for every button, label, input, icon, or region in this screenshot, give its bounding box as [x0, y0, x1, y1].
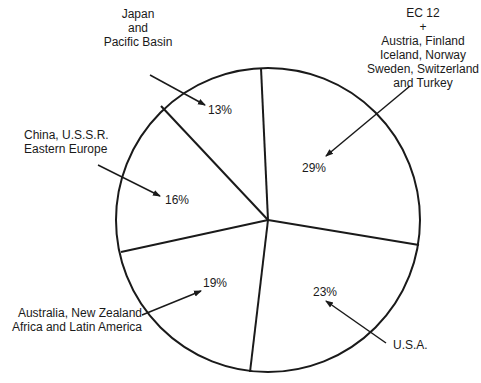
- percent-ec12: 29%: [302, 161, 326, 175]
- arrow-china: [98, 165, 160, 196]
- percent-usa: 23%: [313, 285, 337, 299]
- percent-china: 16%: [165, 193, 189, 207]
- divider-bottom: [250, 220, 268, 372]
- label-china: China, U.S.S.R. Eastern Europe: [24, 128, 109, 156]
- label-ec12: EC 12 + Austria, Finland Iceland, Norway…: [364, 6, 481, 90]
- divider-right: [268, 220, 419, 245]
- divider-left: [121, 220, 268, 252]
- label-usa: U.S.A.: [393, 338, 428, 352]
- percent-australia: 19%: [203, 276, 227, 290]
- label-australia: Australia, New Zealand Africa and Latin …: [5, 306, 142, 334]
- arrow-australia: [142, 291, 201, 315]
- percent-japan: 13%: [208, 103, 232, 117]
- arrow-usa: [326, 301, 386, 343]
- label-japan: Japan and Pacific Basin: [92, 7, 184, 49]
- arrow-japan: [150, 75, 205, 105]
- divider-top: [261, 68, 268, 220]
- arrow-ec12: [326, 86, 410, 156]
